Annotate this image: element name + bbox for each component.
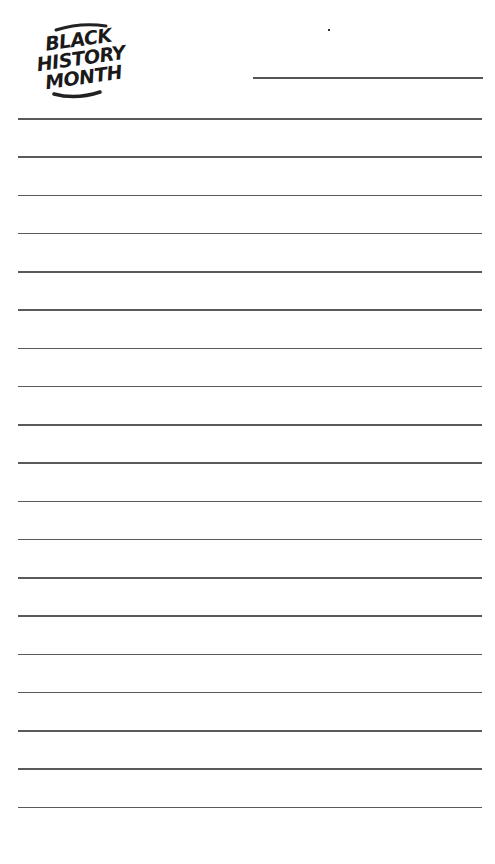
writing-line[interactable] (18, 768, 482, 770)
writing-line[interactable] (18, 233, 482, 235)
writing-line[interactable] (18, 271, 482, 273)
name-field-line[interactable] (253, 77, 483, 79)
writing-line[interactable] (18, 692, 482, 694)
writing-line[interactable] (18, 424, 482, 426)
writing-line[interactable] (18, 807, 482, 809)
writing-line[interactable] (18, 348, 482, 350)
writing-line[interactable] (18, 386, 482, 388)
writing-line[interactable] (18, 118, 482, 120)
writing-line[interactable] (18, 577, 482, 579)
writing-line[interactable] (18, 309, 482, 311)
writing-line[interactable] (18, 462, 482, 464)
writing-line[interactable] (18, 730, 482, 732)
writing-line[interactable] (18, 615, 482, 617)
writing-line[interactable] (18, 195, 482, 197)
black-history-month-logo: BLACK HISTORY MONTH (36, 20, 126, 100)
writing-line[interactable] (18, 501, 482, 503)
writing-line[interactable] (18, 654, 482, 656)
writing-line[interactable] (18, 539, 482, 541)
paper-speck (328, 29, 330, 31)
writing-line[interactable] (18, 156, 482, 158)
